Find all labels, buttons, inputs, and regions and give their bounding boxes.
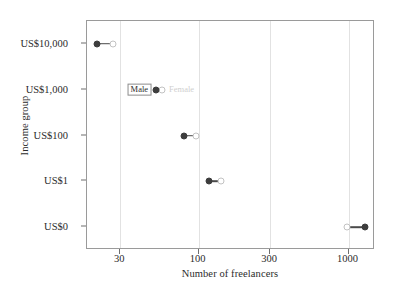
- y-tick-label-US1: US$1: [44, 175, 68, 186]
- y-tick-mark: [81, 42, 86, 43]
- legend-label-female: Female: [167, 84, 196, 95]
- data-point-male[interactable]: [153, 86, 160, 93]
- data-point-female[interactable]: [110, 40, 117, 47]
- data-point-male[interactable]: [94, 40, 101, 47]
- gridline-1000: [349, 21, 350, 248]
- y-tick-label-US0: US$0: [44, 221, 68, 232]
- data-point-male[interactable]: [181, 132, 188, 139]
- legend-label-male: Male: [128, 83, 151, 96]
- y-axis-title: Income group: [19, 56, 30, 196]
- data-point-male[interactable]: [362, 224, 369, 231]
- y-tick-label-US1000: US$1,000: [26, 83, 68, 94]
- y-tick-mark: [81, 226, 86, 227]
- y-tick-mark: [81, 180, 86, 181]
- data-point-female[interactable]: [218, 178, 225, 185]
- data-point-male[interactable]: [205, 178, 212, 185]
- y-tick-mark: [81, 134, 86, 135]
- plot-panel: MaleFemale: [86, 20, 374, 249]
- gridline-300: [270, 21, 271, 248]
- dumbbell-chart: Income group Number of freelancers MaleF…: [0, 0, 397, 294]
- x-axis-title: Number of freelancers: [86, 268, 374, 279]
- y-tick-mark: [81, 88, 86, 89]
- x-tick-label: 30: [114, 253, 125, 264]
- y-tick-label-US10000: US$10,000: [20, 37, 68, 48]
- x-tick-label: 1000: [337, 253, 358, 264]
- y-tick-label-US100: US$100: [34, 129, 68, 140]
- x-tick-label: 300: [261, 253, 277, 264]
- x-tick-label: 100: [190, 253, 206, 264]
- gridline-30: [120, 21, 121, 248]
- data-point-female[interactable]: [193, 132, 200, 139]
- data-point-female[interactable]: [159, 86, 166, 93]
- data-point-female[interactable]: [343, 224, 350, 231]
